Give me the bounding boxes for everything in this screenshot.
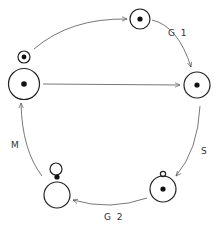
cell-nucleus [54, 174, 59, 179]
label-m: M [11, 140, 20, 150]
cell-nucleus [21, 81, 27, 87]
arrow-g2 [73, 198, 147, 205]
cell-nucleus [194, 82, 199, 87]
cell-nucleus [22, 55, 27, 60]
cell-right [184, 72, 210, 98]
arrow-mother-to-right [43, 84, 180, 85]
arrow-s [176, 106, 200, 176]
label-s: S [201, 146, 208, 156]
cell-nucleus [137, 16, 142, 21]
cell-top [130, 9, 150, 29]
cell-bottom-left [44, 163, 70, 208]
cell-membrane [44, 182, 70, 208]
label-g2: G 2 [104, 212, 124, 222]
cell-cycle-diagram: G 1 S G 2 M [0, 0, 221, 229]
cell-left-mother [9, 69, 40, 100]
cell-nucleus [160, 186, 165, 191]
cell-bottom-right [150, 171, 176, 202]
arrow-m [21, 103, 42, 176]
arrow-daughter-to-top [34, 19, 127, 49]
cell-left-daughter [18, 51, 30, 63]
cell-bud [50, 163, 62, 175]
label-g1: G 1 [168, 28, 188, 38]
